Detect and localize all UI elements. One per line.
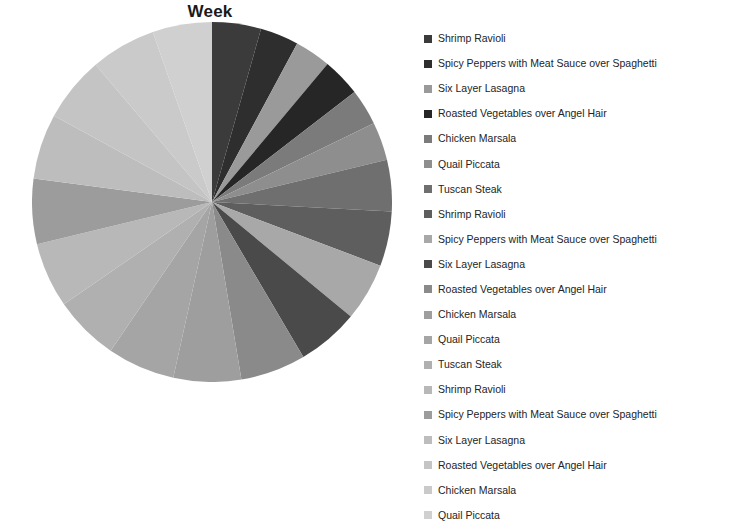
legend-swatch-icon [424, 60, 432, 68]
legend-swatch-icon [424, 311, 432, 319]
legend-swatch-icon [424, 361, 432, 369]
legend-item[interactable]: Quail Piccata [424, 151, 724, 176]
legend-item-label: Roasted Vegetables over Angel Hair [438, 108, 607, 119]
legend-item[interactable]: Tuscan Steak [424, 177, 724, 202]
legend-item-label: Quail Piccata [438, 510, 500, 521]
legend-item[interactable]: Quail Piccata [424, 327, 724, 352]
legend-item[interactable]: Shrimp Ravioli [424, 377, 724, 402]
legend-item-label: Tuscan Steak [438, 359, 502, 370]
legend-swatch-icon [424, 411, 432, 419]
legend-item-label: Six Layer Lasagna [438, 83, 525, 94]
legend-item[interactable]: Six Layer Lasagna [424, 252, 724, 277]
legend-item[interactable]: Chicken Marsala [424, 478, 724, 503]
legend-swatch-icon [424, 35, 432, 43]
legend-item[interactable]: Quail Piccata [424, 503, 724, 525]
pie-svg [32, 22, 392, 382]
legend-item-label: Spicy Peppers with Meat Sauce over Spagh… [438, 58, 657, 69]
legend-swatch-icon [424, 486, 432, 494]
legend-item-label: Chicken Marsala [438, 309, 516, 320]
legend-item[interactable]: Spicy Peppers with Meat Sauce over Spagh… [424, 402, 724, 427]
legend-item-label: Six Layer Lasagna [438, 435, 525, 446]
legend-swatch-icon [424, 160, 432, 168]
legend-item[interactable]: Roasted Vegetables over Angel Hair [424, 277, 724, 302]
legend-item-label: Shrimp Ravioli [438, 33, 506, 44]
legend-item-label: Tuscan Steak [438, 184, 502, 195]
legend-swatch-icon [424, 436, 432, 444]
legend-item-label: Shrimp Ravioli [438, 384, 506, 395]
legend-item[interactable]: Chicken Marsala [424, 126, 724, 151]
legend-swatch-icon [424, 285, 432, 293]
legend-item-label: Roasted Vegetables over Angel Hair [438, 284, 607, 295]
pie-slice-group [32, 22, 392, 382]
legend-item[interactable]: Roasted Vegetables over Angel Hair [424, 101, 724, 126]
legend-swatch-icon [424, 336, 432, 344]
legend-item-label: Chicken Marsala [438, 133, 516, 144]
legend-item-label: Shrimp Ravioli [438, 209, 506, 220]
legend-swatch-icon [424, 260, 432, 268]
legend-item[interactable]: Six Layer Lasagna [424, 76, 724, 101]
legend-item-label: Spicy Peppers with Meat Sauce over Spagh… [438, 409, 657, 420]
legend-item[interactable]: Spicy Peppers with Meat Sauce over Spagh… [424, 51, 724, 76]
legend-item[interactable]: Shrimp Ravioli [424, 202, 724, 227]
legend-swatch-icon [424, 85, 432, 93]
pie-plot-area [32, 22, 392, 382]
legend-item-label: Quail Piccata [438, 159, 500, 170]
legend-item-label: Quail Piccata [438, 334, 500, 345]
legend-swatch-icon [424, 461, 432, 469]
legend-item[interactable]: Six Layer Lasagna [424, 428, 724, 453]
legend-swatch-icon [424, 386, 432, 394]
chart-legend: Shrimp RavioliSpicy Peppers with Meat Sa… [424, 26, 724, 525]
legend-swatch-icon [424, 511, 432, 519]
legend-item-label: Six Layer Lasagna [438, 259, 525, 270]
legend-item[interactable]: Shrimp Ravioli [424, 26, 724, 51]
chart-title: Week [0, 2, 420, 22]
legend-swatch-icon [424, 210, 432, 218]
legend-item[interactable]: Roasted Vegetables over Angel Hair [424, 453, 724, 478]
legend-swatch-icon [424, 185, 432, 193]
legend-item[interactable]: Chicken Marsala [424, 302, 724, 327]
legend-item[interactable]: Spicy Peppers with Meat Sauce over Spagh… [424, 227, 724, 252]
legend-swatch-icon [424, 110, 432, 118]
legend-item-label: Roasted Vegetables over Angel Hair [438, 460, 607, 471]
legend-swatch-icon [424, 135, 432, 143]
legend-item[interactable]: Tuscan Steak [424, 352, 724, 377]
legend-item-label: Spicy Peppers with Meat Sauce over Spagh… [438, 234, 657, 245]
legend-swatch-icon [424, 235, 432, 243]
legend-item-label: Chicken Marsala [438, 485, 516, 496]
